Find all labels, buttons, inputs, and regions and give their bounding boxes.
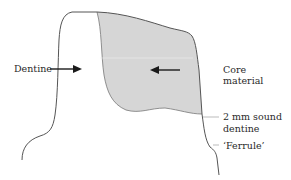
ferrule-label: ‘Ferrule’ (223, 140, 265, 151)
dentine-arrow (50, 65, 82, 73)
sound-dentine-label-line1: 2 mm sound (223, 111, 282, 122)
dentine-label: Dentine (14, 63, 52, 74)
core-material-label-line2: material (223, 75, 263, 86)
core-material-region (97, 12, 202, 114)
sound-dentine-label-line2: dentine (223, 123, 259, 134)
tooth-diagram (0, 0, 291, 180)
core-material-label-line1: Core (223, 64, 246, 75)
